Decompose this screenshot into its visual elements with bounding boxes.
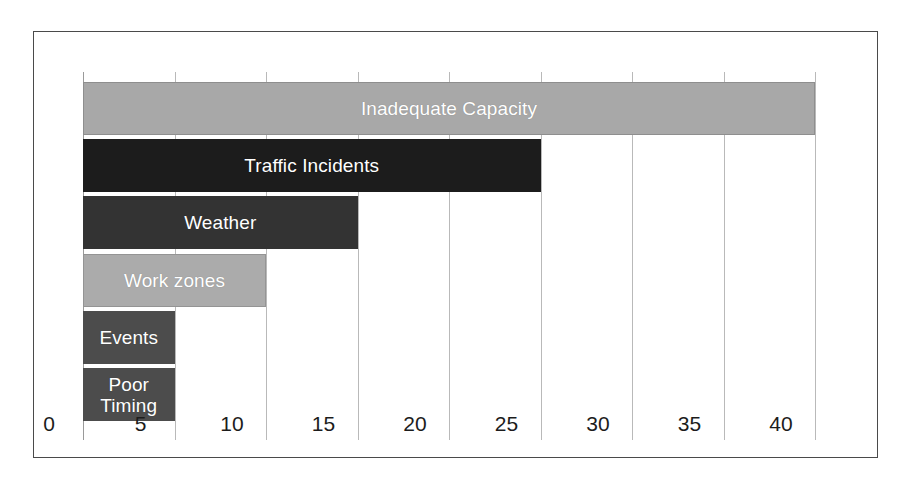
bar-row: Traffic Incidents — [83, 139, 815, 192]
bar-traffic-incidents[interactable]: Traffic Incidents — [83, 139, 541, 192]
bar-row: Inadequate Capacity — [83, 82, 815, 135]
x-tick-label-30: 30 — [586, 412, 609, 436]
x-tick-label-20: 20 — [403, 412, 426, 436]
bar-chart-figure: Inadequate CapacityTraffic IncidentsWeat… — [0, 0, 907, 487]
bar-label: Poor Timing — [100, 374, 157, 416]
bars-layer: Inadequate CapacityTraffic IncidentsWeat… — [83, 72, 815, 440]
plot-area: Inadequate CapacityTraffic IncidentsWeat… — [83, 72, 815, 440]
bar-events[interactable]: Events — [83, 311, 175, 364]
bar-row: Weather — [83, 196, 815, 249]
x-tick-label-35: 35 — [678, 412, 701, 436]
bar-work-zones[interactable]: Work zones — [83, 254, 266, 307]
figure-frame: Inadequate CapacityTraffic IncidentsWeat… — [33, 31, 878, 458]
x-tick-label-40: 40 — [769, 412, 792, 436]
bar-row: Work zones — [83, 254, 815, 307]
bar-label: Inadequate Capacity — [361, 98, 537, 119]
x-tick-label-25: 25 — [495, 412, 518, 436]
bar-label: Traffic Incidents — [244, 155, 379, 176]
bar-label: Weather — [184, 212, 256, 233]
x-tick-label-0: 0 — [43, 412, 55, 436]
bar-label: Work zones — [124, 270, 225, 291]
bar-inadequate-capacity[interactable]: Inadequate Capacity — [83, 82, 815, 135]
x-tick-label-10: 10 — [220, 412, 243, 436]
bar-weather[interactable]: Weather — [83, 196, 358, 249]
gridline-40 — [815, 72, 816, 440]
x-axis-tick-labels: 0510152025303540 — [49, 412, 781, 446]
bar-row: Events — [83, 311, 815, 364]
bar-label: Events — [99, 327, 158, 348]
x-tick-label-5: 5 — [135, 412, 147, 436]
x-tick-label-15: 15 — [312, 412, 335, 436]
